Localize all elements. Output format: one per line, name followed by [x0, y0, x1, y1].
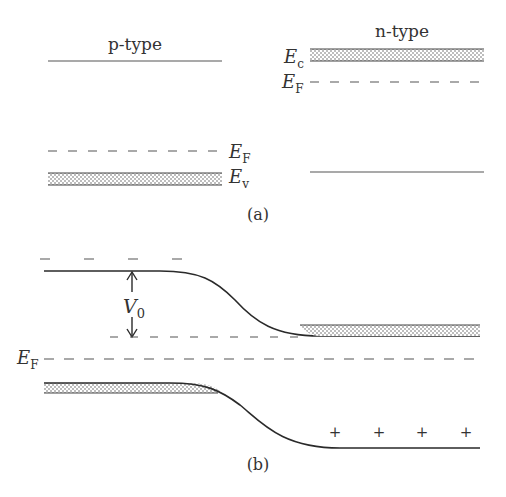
plus-sign: + [460, 423, 473, 441]
pn-junction-band-diagram: p-type EF Ev n-type Ec EF (a) [0, 0, 506, 497]
n-conduction-band [310, 49, 484, 61]
p-fermi-label: EF [228, 141, 250, 166]
p-valence-band [48, 173, 222, 185]
plus-sign: + [329, 423, 342, 441]
p-type-title: p-type [108, 34, 162, 54]
p-type-bands: p-type EF Ev [48, 34, 250, 191]
panel-b-caption: (b) [247, 455, 270, 474]
positive-charges: + + + + [329, 423, 473, 441]
panel-a-caption: (a) [247, 205, 269, 224]
panel-b: V0 EF + + + + (b) [16, 259, 480, 474]
panel-a: p-type EF Ev n-type Ec EF (a) [48, 21, 484, 224]
n-conduction-label: Ec [283, 46, 304, 71]
barrier-label: V0 [123, 295, 145, 321]
fermi-label: EF [16, 347, 38, 372]
n-type-title: n-type [375, 21, 429, 41]
n-side-conduction-band-fill [300, 325, 480, 336]
plus-sign: + [416, 423, 429, 441]
n-fermi-label: EF [281, 71, 303, 96]
p-valence-label: Ev [228, 166, 249, 191]
n-type-bands: n-type Ec EF [281, 21, 484, 172]
plus-sign: + [373, 423, 386, 441]
